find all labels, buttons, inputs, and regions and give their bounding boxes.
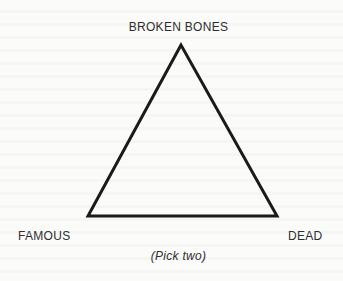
vertex-label-bottom-right: DEAD: [288, 229, 323, 243]
vertex-label-bottom-left: FAMOUS: [18, 229, 70, 243]
caption: (Pick two): [0, 249, 343, 263]
vertex-label-top: BROKEN BONES: [0, 20, 343, 34]
